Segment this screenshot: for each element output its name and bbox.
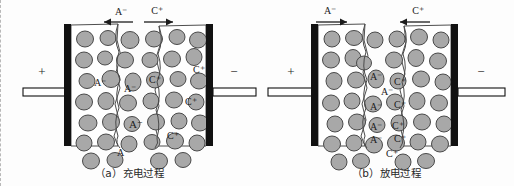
anion-migration-arrow: A⁻ <box>104 6 133 25</box>
svg-text:−: − <box>477 64 484 79</box>
anion-arrow-label: A⁻ <box>324 5 336 16</box>
cation-label: C⁺ <box>193 64 205 75</box>
anion-label: A⁻ <box>370 101 382 112</box>
anion-label: A⁻ <box>381 86 393 97</box>
anion-migration-arrow: A⁻ <box>316 5 347 25</box>
cation-label: C⁺ <box>149 74 161 85</box>
cation-label: C⁺ <box>394 133 406 144</box>
diagram-discharging-panel: + − + − <box>258 0 514 186</box>
discharging-cell-drawing: + − + − <box>258 0 514 186</box>
cation-migration-arrow: C⁺ <box>144 5 173 25</box>
anion-label: A⁻ <box>370 71 382 82</box>
cation-migration-arrow: C⁺ <box>400 5 430 25</box>
svg-text:+: + <box>38 64 45 79</box>
charging-cell-drawing: + − + − <box>1 0 258 186</box>
cation-label: C⁺ <box>394 76 406 87</box>
anion-label: A⁻ <box>370 121 382 132</box>
anion-label: A⁻ <box>124 83 136 94</box>
figure-canvas: + − + − <box>0 0 514 186</box>
cation-arrow-label: C⁺ <box>151 5 163 16</box>
cation-label: C⁺ <box>386 148 398 159</box>
svg-text:+: + <box>287 64 294 79</box>
cation-label: C⁺ <box>394 99 406 110</box>
cation-label: C⁺ <box>185 96 197 107</box>
diagram-charging-panel: + − + − <box>1 0 258 186</box>
anion-label: A <box>117 147 125 158</box>
anion-arrow-label: A⁻ <box>115 6 127 17</box>
anion-label: A⁻ <box>370 134 382 145</box>
anion-label: A⁻ <box>129 118 143 130</box>
panel-a-caption: （a）充电过程 <box>1 165 258 180</box>
anion-label: A⁻ <box>94 77 106 88</box>
panel-b-caption: （b）放电过程 <box>258 165 514 180</box>
svg-text:−: − <box>230 64 237 79</box>
cation-label: C⁺ <box>392 120 404 131</box>
cation-label: C⁺ <box>167 130 179 141</box>
cation-arrow-label: C⁺ <box>412 5 424 16</box>
